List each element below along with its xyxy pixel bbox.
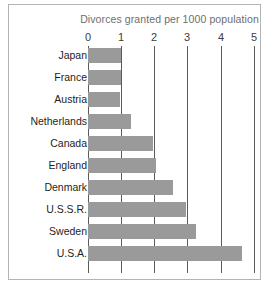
bar-row: U.S.S.R. (9, 201, 262, 223)
bar-row: Canada (9, 135, 262, 157)
bar-france (88, 70, 121, 85)
bar-row: England (9, 157, 262, 179)
bar-label: U.S.S.R. (0, 203, 87, 215)
bar-label: U.S.A. (0, 247, 87, 259)
bar-austria (88, 92, 120, 107)
bar-label: Japan (0, 49, 87, 61)
bar-row: Netherlands (9, 113, 262, 135)
bar-row: France (9, 69, 262, 91)
bar-label: France (0, 71, 87, 83)
bar-usa (88, 246, 242, 261)
bar-row: Austria (9, 91, 262, 113)
bar-row: Denmark (9, 179, 262, 201)
bar-row: U.S.A. (9, 245, 262, 267)
bar-row: Japan (9, 47, 262, 69)
bar-canada (88, 136, 153, 151)
bar-netherlands (88, 114, 131, 129)
bar-ussr (88, 202, 186, 217)
chart-frame: Divorces granted per 1000 population 0 1… (8, 4, 261, 280)
bar-label: Denmark (0, 181, 87, 193)
bar-row: Sweden (9, 223, 262, 245)
bar-label: Canada (0, 137, 87, 149)
plot-area: Japan France Austria Netherlands Canada … (9, 47, 262, 275)
bar-label: Netherlands (0, 115, 87, 127)
bar-label: Austria (0, 93, 87, 105)
bar-england (88, 158, 156, 173)
bar-sweden (88, 224, 196, 239)
bar-denmark (88, 180, 173, 195)
bar-label: Sweden (0, 225, 87, 237)
bar-japan (88, 48, 121, 63)
bar-label: England (0, 159, 87, 171)
